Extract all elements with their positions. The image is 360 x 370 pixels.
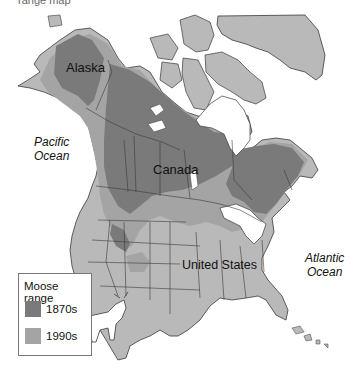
- legend-swatch-1870s: [25, 301, 41, 317]
- legend-label-1870s: 1870s: [46, 303, 77, 315]
- label-pacific-ocean: Pacific Ocean: [34, 135, 69, 163]
- label-united-states: United States: [182, 258, 257, 272]
- legend: Moose range 1870s 1990s: [18, 273, 92, 356]
- label-atlantic-ocean: Atlantic Ocean: [305, 251, 344, 279]
- label-canada: Canada: [153, 162, 199, 177]
- label-alaska: Alaska: [66, 60, 105, 75]
- legend-swatch-1990s: [25, 328, 41, 344]
- legend-label-1990s: 1990s: [46, 330, 77, 342]
